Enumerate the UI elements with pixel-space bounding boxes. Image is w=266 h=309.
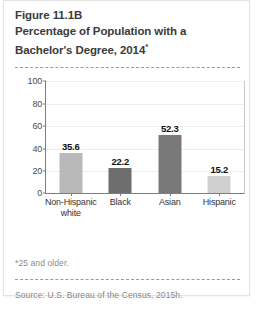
x-category-label-line: white: [45, 208, 97, 219]
source-note: Source: U.S. Bureau of the Census, 2015h…: [15, 290, 240, 300]
x-category-label: Hispanic: [203, 197, 236, 208]
x-tick-mark: [71, 193, 72, 196]
bar-group: 22.2Black: [96, 81, 146, 193]
divider-top: [15, 67, 240, 68]
figure-title-line-2: Percentage of Population with a: [15, 24, 240, 40]
bar-value-label: 52.3: [161, 123, 179, 134]
divider-bottom: [15, 279, 240, 280]
figure-title-line-3: Bachelor's Degree, 2014*: [15, 39, 240, 58]
y-tick-label: 20: [32, 166, 42, 176]
footnote: *25 and older.: [15, 258, 240, 268]
figure-content: Figure 11.1B Percentage of Population wi…: [15, 8, 240, 289]
x-tick-mark: [219, 193, 220, 196]
x-category-label-line: Non-Hispanic: [45, 197, 97, 208]
bar-chart: 020406080100 35.6Non-Hispanicwhite22.2Bl…: [15, 78, 242, 218]
bar: 15.2: [208, 176, 231, 193]
y-tick-label: 100: [28, 76, 42, 86]
bar-group: 35.6Non-Hispanicwhite: [46, 81, 96, 193]
bar-value-label: 22.2: [111, 156, 129, 167]
bar-series: 35.6Non-Hispanicwhite22.2Black52.3Asian1…: [46, 81, 244, 193]
bar: 35.6: [59, 153, 82, 193]
bar-value-label: 35.6: [62, 141, 80, 152]
x-category-label-line: Hispanic: [203, 197, 236, 208]
x-category-label-line: Asian: [159, 197, 181, 208]
x-category-label: Asian: [159, 197, 181, 208]
bar: 52.3: [158, 135, 181, 194]
figure-title: Figure 11.1B Percentage of Population wi…: [15, 8, 240, 58]
y-tick-label: 80: [32, 99, 42, 109]
bar-group: 15.2Hispanic: [195, 81, 245, 193]
bar-value-label: 15.2: [210, 164, 228, 175]
plot-area: 020406080100 35.6Non-Hispanicwhite22.2Bl…: [45, 81, 245, 194]
x-category-label: Black: [110, 197, 131, 208]
x-category-label: Non-Hispanicwhite: [45, 197, 97, 219]
y-tick-label: 0: [37, 188, 42, 198]
bar: 22.2: [109, 168, 132, 193]
x-tick-mark: [120, 193, 121, 196]
y-tick-label: 40: [32, 144, 42, 154]
figure-card: Figure 11.1B Percentage of Population wi…: [3, 0, 250, 296]
x-category-label-line: Black: [110, 197, 131, 208]
figure-title-line-1: Figure 11.1B: [15, 8, 240, 24]
bar-group: 52.3Asian: [145, 81, 195, 193]
figure-title-line-3-text: Bachelor's Degree, 2014: [15, 44, 145, 56]
figure-title-asterisk: *: [145, 42, 148, 51]
y-tick-label: 60: [32, 121, 42, 131]
x-tick-mark: [170, 193, 171, 196]
